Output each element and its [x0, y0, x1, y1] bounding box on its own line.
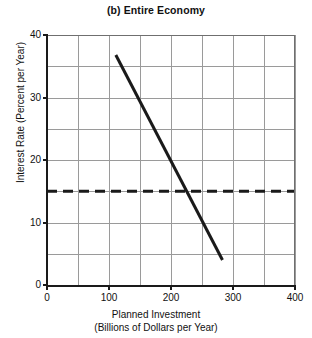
plot-frame: [47, 35, 295, 285]
x-tick-label: 100: [89, 293, 129, 303]
x-tick-label: 300: [213, 293, 253, 303]
x-axis-title-line1: Planned Investment: [0, 308, 312, 321]
x-axis-title-line2: (Billions of Dollars per Year): [0, 321, 312, 334]
y-tick-label: 0: [7, 280, 41, 290]
plot-area: [47, 35, 295, 285]
chart-title: (b) Entire Economy: [0, 4, 312, 16]
x-axis-title: Planned Investment (Billions of Dollars …: [0, 308, 312, 334]
plot-frame-top: [47, 35, 295, 36]
gridline-vertical: [295, 35, 296, 285]
y-axis-line: [46, 34, 48, 286]
y-axis-title: Interest Rate (Percent per Year): [15, 0, 26, 238]
chart-figure: (b) Entire Economy 010203040010020030040…: [0, 0, 312, 338]
x-tick-label: 0: [27, 293, 67, 303]
x-tick-label: 400: [275, 293, 312, 303]
x-axis-line: [46, 285, 296, 287]
plot-frame-right: [294, 35, 295, 285]
x-tick-label: 200: [151, 293, 191, 303]
